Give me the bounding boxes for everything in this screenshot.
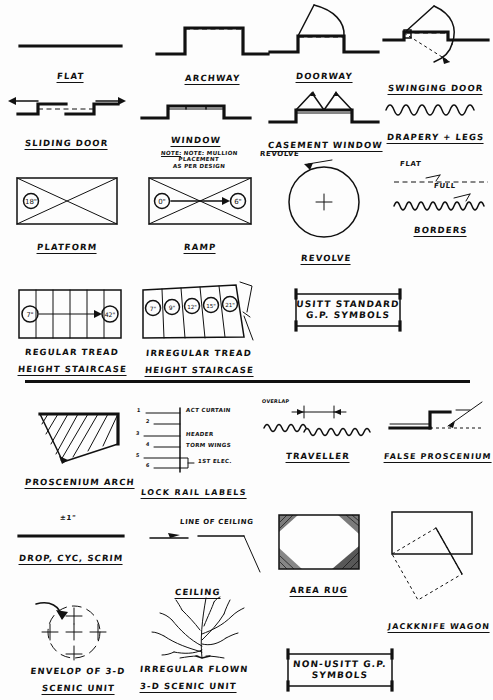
symbol-label: PROSCENIUM ARCH — [25, 477, 136, 489]
symbol-sheet: FLAT ARCHWAY DOORWAY — [0, 0, 493, 700]
symbol-label: SLIDING DOOR — [25, 138, 109, 150]
symbol-irregular-stair: 7" 9" 12" 15" 21" IRREGULAR TREAD HEIGHT… — [140, 282, 258, 377]
tread-4: 15" — [206, 303, 216, 309]
irregular-stair-glyph: 7" 9" 12" 15" 21" — [140, 282, 258, 344]
symbol-label: FLAT — [56, 71, 84, 83]
symbol-archway: ARCHWAY — [155, 20, 270, 85]
tread-5: 21" — [225, 302, 235, 308]
drop-tolerance-tag: ±1" — [60, 514, 77, 522]
lock-rail-num-3: 3 — [136, 430, 140, 436]
symbol-label-line-1: ENVELOP OF 3-D — [20, 666, 137, 676]
symbol-ramp: 0" 6" RAMP — [146, 175, 254, 254]
symbol-jackknife-wagon: JACKKNIFE WAGON — [388, 508, 490, 633]
revolve-callout: REVOLVE — [260, 150, 300, 158]
symbol-traveller: OVERLAP TRAVELLER — [262, 400, 374, 463]
regular-stair-glyph: 7" 42" — [16, 287, 124, 341]
symbol-label: RAMP — [183, 242, 216, 254]
symbol-proscenium-arch: PROSCENIUM ARCH — [18, 408, 142, 489]
symbol-label-line-1: REGULAR TREAD — [16, 347, 129, 357]
lock-rail-num-1: 1 — [137, 407, 141, 413]
note-line-1: NOTE: MULLION PLACEMENT — [178, 150, 238, 162]
ramp-low-tag: 0" — [158, 198, 166, 206]
false-proscenium-glyph — [384, 400, 490, 442]
flat-glyph — [18, 38, 123, 56]
ramp-glyph: 0" 6" — [146, 175, 254, 227]
ramp-high-tag: 6" — [234, 198, 242, 206]
irregular-flown-glyph — [140, 596, 252, 662]
symbol-label: REVOLVE — [300, 253, 351, 265]
swinging-door-glyph — [382, 2, 490, 74]
envelop-3d-glyph — [20, 600, 124, 662]
platform-glyph: 18" — [14, 175, 120, 227]
symbol-label: PLATFORM — [36, 242, 97, 254]
lock-rail-text-1: ACT CURTAIN — [186, 407, 231, 413]
symbol-label: WINDOW — [171, 135, 222, 147]
symbol-label: ARCHWAY — [184, 73, 240, 85]
casement-window-glyph — [268, 88, 380, 128]
usitt-box-line-2: G.P. SYMBOLS — [296, 310, 401, 320]
symbol-label-line-1: IRREGULAR FLOWN — [140, 664, 257, 674]
sliding-door-glyph — [8, 92, 126, 124]
symbol-false-proscenium: FALSE PROSCENIUM — [384, 400, 490, 463]
symbol-drop-cyc-scrim: ±1" DROP, CYC, SCRIM — [16, 524, 126, 565]
symbol-label-line-2: HEIGHT STAIRCASE — [144, 365, 254, 377]
symbol-area-rug: AREA RUG — [276, 512, 362, 597]
drop-cyc-scrim-glyph — [16, 524, 126, 542]
symbol-label-line-2: 3-D SCENIC UNIT — [139, 681, 237, 693]
borders-flat-tag: FLAT — [400, 160, 422, 168]
tread-2: 9" — [169, 304, 176, 311]
borders-glyph — [392, 168, 490, 216]
archway-glyph — [155, 20, 270, 60]
symbol-irregular-flown: IRREGULAR FLOWN 3-D SCENIC UNIT — [140, 596, 256, 693]
symbol-window: WINDOW NOTE:NOTE: MULLION PLACEMENT AS P… — [140, 96, 258, 169]
symbol-flat: FLAT — [18, 38, 123, 83]
platform-height-tag: 18" — [25, 198, 37, 206]
symbol-label: FALSE PROSCENIUM — [384, 452, 492, 463]
drapery-glyph — [384, 98, 488, 120]
symbol-doorway: DOORWAY — [268, 2, 380, 83]
symbol-label: LOCK RAIL LABELS — [141, 488, 248, 499]
symbol-drapery-legs: DRAPERY + LEGS — [384, 98, 488, 144]
tread-1: 7" — [150, 305, 157, 312]
usitt-standard-box: USITT STANDARD G.P. SYMBOLS — [288, 288, 408, 332]
symbol-label: BORDERS — [414, 225, 469, 237]
proscenium-arch-glyph — [18, 408, 128, 466]
lock-rail-text-3: HEADER — [186, 431, 214, 437]
non-usitt-box: NON-USITT G.P. SYMBOLS — [280, 648, 400, 692]
non-usitt-box-line-2: SYMBOLS — [288, 670, 393, 680]
traveller-overlap-tag: OVERLAP — [262, 398, 290, 404]
lock-rail-num-2: 2 — [146, 418, 150, 424]
tread-3: 12" — [187, 304, 197, 310]
lock-rail-text-6: 1ST ELEC. — [198, 458, 232, 464]
section-divider — [25, 380, 470, 383]
symbol-label: DOORWAY — [295, 71, 353, 83]
symbol-ceiling: LINE OF CEILING CEILING — [148, 520, 260, 599]
symbol-regular-stair: 7" 42" REGULAR TREAD HEIGHT STAIRCASE — [16, 287, 128, 376]
symbol-casement-window: CASEMENT WINDOW — [268, 88, 380, 152]
symbol-envelop-3d: ENVELOP OF 3-D SCENIC UNIT — [20, 600, 136, 695]
symbol-label: SWINGING DOOR — [388, 83, 484, 95]
symbol-platform: 18" PLATFORM — [14, 175, 120, 254]
symbol-label: JACKKNIFE WAGON — [388, 622, 491, 633]
traveller-glyph — [262, 400, 374, 442]
symbol-label: DROP, CYC, SCRIM — [18, 553, 123, 565]
stair-first-tread: 7" — [26, 311, 33, 319]
ceiling-callout: LINE OF CEILING — [180, 518, 254, 526]
symbol-swinging-door: SWINGING DOOR — [382, 2, 490, 95]
lock-rail-text-4: TORM WINGS — [186, 442, 232, 448]
usitt-box-line-1: USITT STANDARD — [296, 299, 401, 309]
window-note: NOTE:NOTE: MULLION PLACEMENT AS PER DESI… — [140, 150, 258, 169]
symbol-label: TRAVELLER — [286, 451, 351, 463]
symbol-revolve: REVOLVE REVOLVE — [266, 152, 386, 265]
note-line-2: AS PER DESIGN — [140, 163, 259, 169]
area-rug-glyph — [276, 512, 362, 572]
doorway-glyph — [268, 2, 380, 60]
lock-rail-num-5: 5 — [136, 452, 140, 458]
borders-full-tag: FULL — [434, 182, 456, 190]
window-glyph — [140, 96, 252, 124]
symbol-lock-rail-labels: 1 2 3 4 5 6 ACT CURTAIN HEADER TORM WING… — [136, 406, 252, 499]
symbol-borders: FLAT FULL BORDERS — [392, 168, 490, 237]
symbol-sliding-door: SLIDING DOOR — [8, 92, 126, 150]
non-usitt-box-line-1: NON-USITT G.P. — [288, 659, 393, 669]
symbol-label: AREA RUG — [290, 585, 349, 597]
